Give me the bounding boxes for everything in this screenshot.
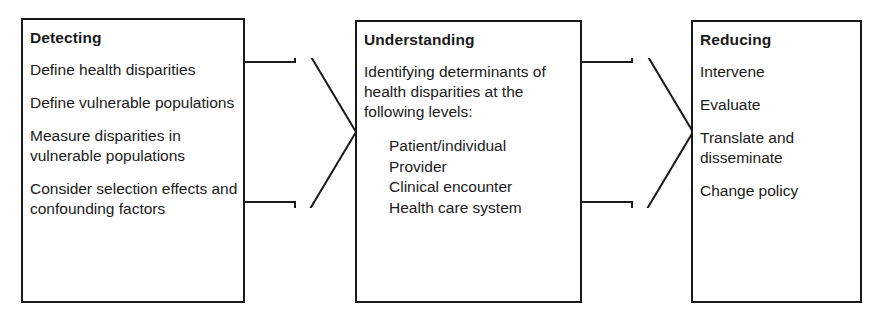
level-item-health-care-system: Health care system: [389, 198, 576, 219]
level-item-provider: Provider: [389, 157, 576, 178]
stage-title-detecting: Detecting: [30, 28, 239, 47]
stage-box-detecting: Detecting Define health disparities Defi…: [21, 18, 245, 303]
stage-item-detecting-4: Consider selection effects and confoundi…: [30, 179, 239, 219]
stage-title-understanding: Understanding: [364, 30, 576, 49]
stage-item-reducing-2: Evaluate: [700, 95, 856, 115]
stage-content-detecting: Detecting Define health disparities Defi…: [30, 28, 239, 219]
stage-item-reducing-4: Change policy: [700, 181, 856, 201]
right-arrow-icon-understanding-to-reducing: [580, 58, 696, 208]
stage-item-detecting-2: Define vulnerable populations: [30, 93, 239, 113]
stage-item-reducing-3: Translate and disseminate: [700, 128, 856, 168]
stage-box-understanding: Understanding Identifying determinants o…: [355, 20, 582, 303]
stage-item-detecting-3: Measure disparities in vulnerable popula…: [30, 126, 239, 166]
stage-lead-understanding: Identifying determinants of health dispa…: [364, 62, 576, 122]
stage-title-reducing: Reducing: [700, 30, 856, 49]
right-arrow-icon-detecting-to-understanding: [243, 58, 359, 208]
stage-content-reducing: Reducing Intervene Evaluate Translate an…: [700, 30, 856, 201]
level-item-patient-individual: Patient/individual: [389, 136, 576, 157]
flow-diagram: Detecting Define health disparities Defi…: [0, 0, 880, 325]
stage-item-detecting-1: Define health disparities: [30, 60, 239, 80]
stage-content-understanding: Understanding Identifying determinants o…: [364, 30, 576, 218]
stage-item-reducing-1: Intervene: [700, 62, 856, 82]
level-item-clinical-encounter: Clinical encounter: [389, 177, 576, 198]
determinant-levels-list: Patient/individual Provider Clinical enc…: [364, 136, 576, 218]
stage-box-reducing: Reducing Intervene Evaluate Translate an…: [691, 20, 862, 303]
